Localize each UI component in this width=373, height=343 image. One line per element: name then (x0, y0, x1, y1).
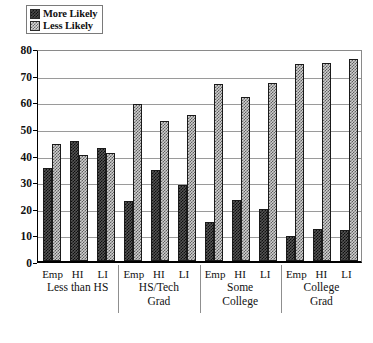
bar-less-likely (241, 97, 250, 261)
bar-more-likely (151, 170, 160, 261)
x-axis-subcategory-label: LI (171, 268, 196, 280)
x-axis-subcategory-label: HI (65, 268, 90, 280)
x-axis-subcategory-label: LI (253, 268, 278, 280)
x-axis-group-label-line: College (202, 295, 279, 309)
x-axis-group: EmpHILISomeCollege (200, 265, 281, 308)
chart-legend: More Likely Less Likely (26, 5, 103, 34)
x-axis-group-label-line: Some (202, 281, 279, 295)
y-axis-tick-mark (33, 50, 37, 51)
legend-swatch-more-likely-icon (30, 9, 40, 19)
x-axis-subcategory-label: Emp (284, 268, 309, 280)
x-axis-group-label: SomeCollege (200, 281, 281, 308)
bar-less-likely (295, 64, 304, 261)
bar-chart-figure: More Likely Less Likely 8070605040302010… (0, 0, 373, 343)
x-axis-subcategory-label: HI (309, 268, 334, 280)
y-axis-tick-mark (33, 236, 37, 237)
x-axis-subcategory-label: Emp (121, 268, 146, 280)
bar-more-likely (205, 222, 214, 261)
x-axis-group-label: HS/TechGrad (118, 281, 199, 308)
bar-less-likely (187, 115, 196, 261)
bar-more-likely (178, 185, 187, 261)
bar-more-likely (124, 201, 133, 261)
bar-more-likely (286, 236, 295, 261)
bar-less-likely (52, 144, 61, 261)
bar-less-likely (133, 104, 142, 261)
y-axis-tick-mark (33, 130, 37, 131)
x-axis-group-label: Less than HS (37, 281, 118, 295)
bar-more-likely (43, 168, 52, 261)
y-axis-tick-mark (33, 210, 37, 211)
bar-less-likely (214, 84, 223, 261)
x-axis-group: EmpHILIHS/TechGrad (118, 265, 199, 308)
bars-container (38, 51, 361, 261)
x-axis-group-label: CollegeGrad (281, 281, 362, 308)
y-axis-tick-mark (33, 157, 37, 158)
legend-label-less-likely: Less Likely (43, 20, 93, 31)
legend-item-less-likely: Less Likely (30, 20, 97, 31)
bar-less-likely (268, 83, 277, 261)
bar-less-likely (322, 63, 331, 261)
x-axis-group-label-line: HS/Tech (120, 281, 197, 295)
bar-less-likely (349, 59, 358, 261)
y-axis-tick-mark (33, 183, 37, 184)
x-axis-subcategory-row: EmpHILI (37, 265, 118, 280)
legend-label-more-likely: More Likely (43, 8, 97, 19)
y-axis-tick-label: 40 (0, 151, 32, 163)
y-axis-tick-label: 0 (0, 257, 32, 269)
x-axis-group-separator (281, 265, 282, 313)
x-axis-subcategory-label: LI (90, 268, 115, 280)
y-axis-tick-label: 30 (0, 177, 32, 189)
bar-less-likely (160, 121, 169, 261)
y-axis-tick-label: 70 (0, 71, 32, 83)
x-axis-group-separator (118, 265, 119, 313)
x-axis-subcategory-label: HI (228, 268, 253, 280)
x-axis-group-separator (200, 265, 201, 313)
x-axis-group-label-line: College (283, 281, 360, 295)
x-axis-subcategory-label: Emp (40, 268, 65, 280)
x-axis-subcategory-label: Emp (203, 268, 228, 280)
legend-item-more-likely: More Likely (30, 8, 97, 19)
x-axis-subcategory-row: EmpHILI (281, 265, 362, 280)
bar-more-likely (70, 141, 79, 261)
y-axis-tick-label: 10 (0, 230, 32, 242)
x-axis-subcategory-label: HI (146, 268, 171, 280)
y-axis-tick-label: 80 (0, 44, 32, 56)
y-axis-tick-mark (33, 103, 37, 104)
plot-area (37, 50, 362, 263)
x-axis-group-label-line: Grad (283, 295, 360, 309)
bar-more-likely (259, 209, 268, 261)
bar-less-likely (106, 153, 115, 261)
bar-more-likely (97, 148, 106, 261)
y-axis-tick-label: 50 (0, 124, 32, 136)
x-axis-group-label-line: Grad (120, 295, 197, 309)
y-axis-tick-label: 60 (0, 97, 32, 109)
x-axis-labels: EmpHILILess than HSEmpHILIHS/TechGradEmp… (37, 265, 362, 343)
legend-swatch-less-likely-icon (30, 21, 40, 31)
bar-less-likely (79, 155, 88, 262)
x-axis-group: EmpHILILess than HS (37, 265, 118, 295)
y-axis-tick-mark (33, 263, 37, 264)
bar-more-likely (232, 200, 241, 261)
bar-more-likely (340, 230, 349, 261)
x-axis-subcategory-row: EmpHILI (200, 265, 281, 280)
bar-more-likely (313, 229, 322, 261)
y-axis-tick-mark (33, 77, 37, 78)
x-axis-group: EmpHILICollegeGrad (281, 265, 362, 308)
x-axis-subcategory-row: EmpHILI (118, 265, 199, 280)
y-axis-tick-label: 20 (0, 204, 32, 216)
x-axis-subcategory-label: LI (334, 268, 359, 280)
x-axis-group-label-line: Less than HS (39, 281, 116, 295)
